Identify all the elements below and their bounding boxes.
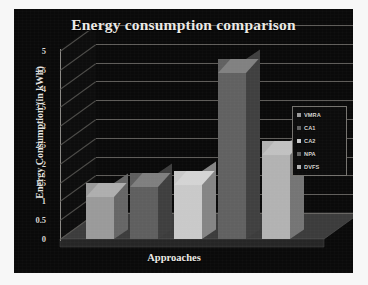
legend-swatch-icon: [297, 113, 301, 117]
legend-swatch-icon: [297, 165, 301, 169]
bar-side-face: [246, 49, 260, 239]
bar-ca2: [174, 171, 202, 239]
bar-dvfs: [262, 141, 290, 239]
legend-swatch-icon: [297, 152, 301, 156]
gridline: [96, 44, 353, 45]
bar-npa: [218, 59, 246, 239]
bar-front-face: [218, 59, 246, 239]
legend-item-dvfs[interactable]: DVFS: [297, 163, 343, 171]
chart-panel: Energy consumption comparison Energy Con…: [14, 9, 353, 273]
bar-front-face: [262, 141, 290, 239]
legend-item-label: CA1: [304, 125, 316, 131]
legend-item-label: CA2: [304, 138, 316, 144]
legend-item-ca2[interactable]: CA2: [297, 137, 343, 145]
chart-title: Energy consumption comparison: [14, 16, 353, 34]
chart-legend: VMRACA1CA2NPADVFS: [292, 106, 347, 176]
bar-vmra: [86, 183, 114, 239]
legend-swatch-icon: [297, 126, 301, 130]
legend-swatch-icon: [297, 139, 301, 143]
legend-item-label: NPA: [304, 151, 316, 157]
legend-item-label: DVFS: [304, 164, 319, 170]
chart-image: Energy consumption comparison Energy Con…: [0, 0, 368, 285]
bar-ca1: [130, 173, 158, 239]
legend-item-label: VMRA: [304, 112, 321, 118]
x-axis-title: Approaches: [74, 252, 274, 263]
legend-item-vmra[interactable]: VMRA: [297, 111, 343, 119]
y-axis-tick-label: 0: [20, 235, 46, 243]
legend-item-npa[interactable]: NPA: [297, 150, 343, 158]
y-axis-title: Energy Consumption (in kWh): [34, 48, 45, 218]
legend-item-ca1[interactable]: CA1: [297, 124, 343, 132]
